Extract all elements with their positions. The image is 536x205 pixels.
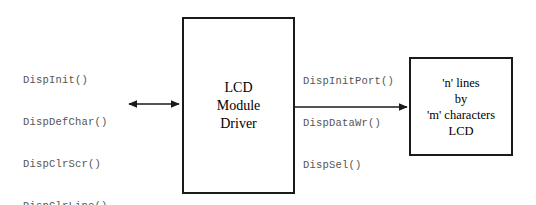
lcd-box-line: 'n' lines bbox=[442, 75, 480, 91]
lcd-box-line: LCD bbox=[449, 123, 474, 139]
driver-box-line: LCD bbox=[225, 79, 253, 97]
api-call-label: DispDataWr() bbox=[303, 116, 394, 130]
api-call-label: DispClrLine() bbox=[23, 199, 127, 205]
lcd-box-line: 'm' characters bbox=[427, 107, 495, 123]
lcd-box-line: by bbox=[455, 91, 468, 107]
api-call-label: DispInitPort() bbox=[303, 74, 394, 88]
lcd-module-driver-box: LCD Module Driver bbox=[182, 17, 295, 194]
api-call-label: DispSel() bbox=[303, 158, 394, 172]
driver-box-line: Driver bbox=[220, 115, 257, 133]
application-api-call-list: DispInit() DispDefChar() DispClrScr() Di… bbox=[23, 45, 127, 205]
arrow-driver-to-lcd bbox=[294, 97, 412, 117]
api-call-label: DispClrScr() bbox=[23, 157, 127, 171]
diagram-canvas: DispInit() DispDefChar() DispClrScr() Di… bbox=[0, 0, 536, 205]
driver-box-line: Module bbox=[217, 97, 261, 115]
api-call-label: DispDefChar() bbox=[23, 115, 127, 129]
port-api-call-list: DispInitPort() DispDataWr() DispSel() bbox=[303, 46, 394, 200]
physical-lcd-box: 'n' lines by 'm' characters LCD bbox=[409, 57, 513, 156]
api-call-label: DispInit() bbox=[23, 73, 127, 87]
bidirectional-arrow-app-to-driver bbox=[124, 94, 184, 114]
